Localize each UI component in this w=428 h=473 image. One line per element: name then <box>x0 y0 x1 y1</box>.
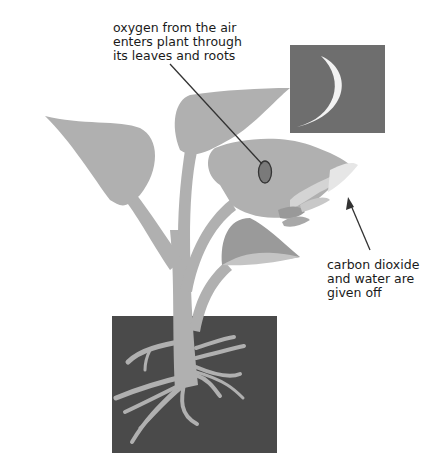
leaf-left <box>45 116 155 205</box>
oxygen-label: oxygen from the air enters plant through… <box>113 21 242 63</box>
carbon-dioxide-label: carbon dioxide and water are given off <box>327 258 419 300</box>
co2-arrow-icon <box>346 197 370 250</box>
stoma-icon <box>259 161 272 183</box>
stem-branch-center <box>178 150 197 240</box>
plant-respiration-diagram <box>0 0 428 473</box>
